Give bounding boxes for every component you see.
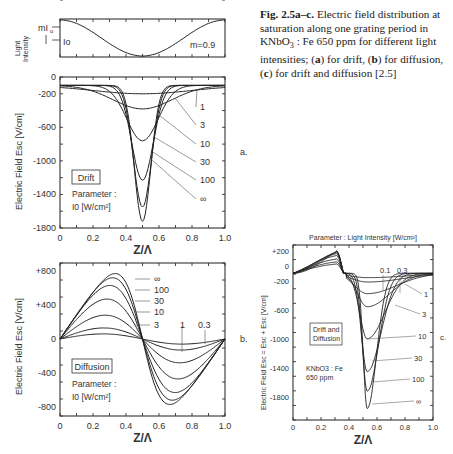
y-axis-label: Electric Field Esc [V/cm] xyxy=(14,298,24,395)
series-label: 10 xyxy=(418,332,426,341)
svg-text:Diffusion: Diffusion xyxy=(313,335,340,342)
modulation-label: m=0.9 xyxy=(190,40,215,50)
y-tick-label: -1800 xyxy=(270,393,289,402)
panel-label: c. xyxy=(440,333,446,342)
y-tick-label: -200 xyxy=(38,89,56,99)
y-tick-label: -1400 xyxy=(33,189,56,199)
y-tick-label: 0 xyxy=(51,334,56,344)
parameter-unit: I0 [W/cm²] xyxy=(72,392,111,402)
series-label: 100 xyxy=(200,175,215,185)
x-tick-label: 0.6 xyxy=(153,233,166,243)
y-tick-label: -600 xyxy=(38,122,56,132)
panel-label: a. xyxy=(240,147,248,157)
svg-text:Drift: Drift xyxy=(78,173,95,183)
parameter-label: Parameter : xyxy=(72,189,116,199)
series-label: 30 xyxy=(154,296,164,306)
series-label: ∞ xyxy=(200,194,206,204)
y-tick-label: +800 xyxy=(36,266,56,276)
y-axis-label: Light xyxy=(14,41,22,56)
y-tick-label: -600 xyxy=(274,306,289,315)
figure: Fig. 2.5a–c. Electric field distribution… xyxy=(0,0,453,454)
series-label: 10 xyxy=(154,307,164,317)
x-tick-label: 1.0 xyxy=(219,233,232,243)
series-label: 30 xyxy=(200,157,210,167)
x-tick-label: 0 xyxy=(291,423,295,432)
x-tick-label: 1.0 xyxy=(219,421,232,431)
series-label: 100 xyxy=(154,285,169,295)
y-tick-label: 0 xyxy=(51,72,56,82)
y-tick-label: +400 xyxy=(36,300,56,310)
x-tick-label: 1.0 xyxy=(428,423,438,432)
x-tick-label: 0.2 xyxy=(316,423,326,432)
y-axis-label: Electric Field Esc [V/cm] xyxy=(14,113,24,210)
y-tick-label: -800 xyxy=(38,402,56,412)
I0-label: Io xyxy=(63,37,71,47)
material-label: KNbO3 : Fe xyxy=(306,365,343,372)
parameter-unit: I0 [W/cm²] xyxy=(72,202,111,212)
series-label: 0.3 xyxy=(397,266,407,275)
x-tick-label: 0 xyxy=(57,421,62,431)
mI0-label: mI xyxy=(38,23,48,33)
y-tick-label: -1800 xyxy=(33,223,56,233)
x-axis-label: Z/Λ xyxy=(133,431,152,445)
x-tick-label: 0.2 xyxy=(87,421,100,431)
x-axis-label: Z/Λ xyxy=(133,243,152,257)
series-label: ∞ xyxy=(154,274,160,284)
series-label: 1 xyxy=(424,290,428,299)
panel-label: b. xyxy=(240,334,248,344)
series-label: 1 xyxy=(180,320,185,330)
data-curve xyxy=(293,259,433,294)
x-tick-label: 0.8 xyxy=(186,233,199,243)
svg-text:Drift and: Drift and xyxy=(313,326,340,333)
svg-text:Diffusion: Diffusion xyxy=(75,362,110,372)
x-tick-label: 0.8 xyxy=(400,423,410,432)
y-tick-label: -1400 xyxy=(270,364,289,373)
x-axis-label: Z/Λ xyxy=(354,433,373,447)
x-tick-label: 0.2 xyxy=(87,233,100,243)
series-label: 10 xyxy=(200,139,210,149)
series-label: 1 xyxy=(200,102,205,112)
charts-canvas: mIoIom=0.9LightIntensity 0-200-600-1000-… xyxy=(0,0,453,454)
svg-text:o: o xyxy=(50,28,54,34)
y-axis-label: Electric Field Esc = Esc + Esc [V/cm] xyxy=(260,295,268,410)
y-tick-label: +200 xyxy=(272,247,289,256)
svg-text:Intensity: Intensity xyxy=(22,35,30,62)
series-label: 3 xyxy=(200,120,205,130)
drift-chart: 0-200-600-1000-1400-180000.20.40.60.81.0… xyxy=(14,72,248,257)
x-tick-label: 0.8 xyxy=(186,421,199,431)
x-tick-label: 0.4 xyxy=(120,421,133,431)
parameter-label: Parameter : xyxy=(72,379,116,389)
series-label: 3 xyxy=(422,310,426,319)
svg-text:650 ppm: 650 ppm xyxy=(306,374,333,382)
drift-diffusion-chart: +2000-200-600-1000-1400-180000.20.40.60.… xyxy=(260,234,446,447)
intensity-chart: mIoIom=0.9LightIntensity xyxy=(14,0,225,62)
x-tick-label: 0 xyxy=(57,233,62,243)
series-label: 30 xyxy=(414,354,422,363)
y-tick-label: -400 xyxy=(38,368,56,378)
x-tick-label: 0.6 xyxy=(372,423,382,432)
y-tick-label: -1000 xyxy=(270,335,289,344)
series-label: 100 xyxy=(412,375,425,384)
chart-title: Parameter : Light Intensity [W/cm²] xyxy=(309,234,417,242)
x-tick-label: 0.6 xyxy=(153,421,166,431)
x-tick-label: 0.4 xyxy=(344,423,354,432)
series-label: 0.1 xyxy=(380,266,390,275)
y-tick-label: 0 xyxy=(285,262,289,271)
series-label: 0.3 xyxy=(198,320,211,330)
y-tick-label: -200 xyxy=(274,277,289,286)
x-tick-label: 0.4 xyxy=(120,233,133,243)
y-tick-label: -1000 xyxy=(33,156,56,166)
series-label: 3 xyxy=(154,320,159,330)
data-curve xyxy=(60,20,225,56)
plot-frame xyxy=(60,19,225,57)
diffusion-chart: +800+4000-400-80000.20.40.60.81.0Z/ΛElec… xyxy=(14,263,248,445)
series-label: ∞ xyxy=(416,397,421,406)
